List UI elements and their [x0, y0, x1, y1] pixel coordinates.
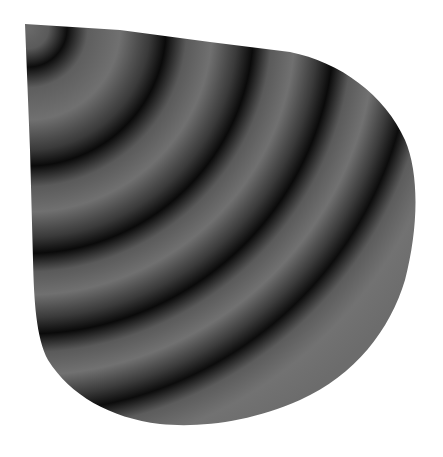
fringe-pattern-figure	[0, 0, 443, 457]
